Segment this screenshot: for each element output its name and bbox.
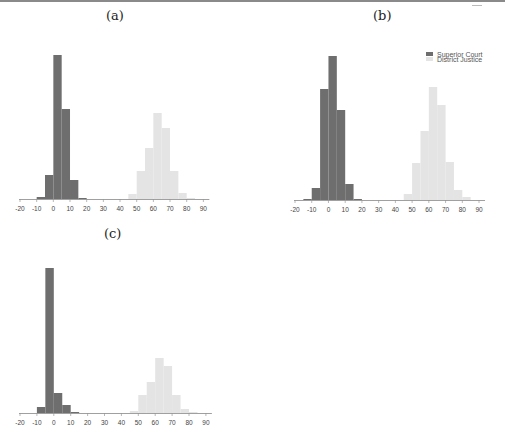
x-tick-label: 40	[116, 205, 124, 212]
legend: Superior CourtDistrict Justice	[426, 51, 483, 63]
histogram-bar	[54, 393, 62, 413]
histogram-bar	[337, 110, 345, 200]
histogram-bar	[45, 268, 53, 413]
histogram-bar	[153, 113, 161, 199]
histogram-bar	[312, 188, 320, 200]
histogram-bar	[137, 171, 145, 199]
x-tick-label: -10	[32, 205, 42, 212]
histogram-panel-b: -20-100102030405060708090Superior CourtD…	[290, 51, 485, 213]
histogram-bar	[429, 87, 437, 200]
histogram-bar	[37, 197, 45, 199]
histogram-bar	[328, 56, 336, 200]
histogram-bar	[147, 382, 155, 413]
x-tick-label: 70	[166, 205, 174, 212]
x-tick-label: 20	[84, 419, 92, 426]
x-tick-label: -20	[15, 205, 25, 212]
histogram-bar	[71, 412, 79, 413]
histogram-panel-a: -20-100102030405060708090	[15, 55, 209, 212]
legend-label: District Justice	[437, 56, 482, 63]
histogram-bar	[320, 89, 328, 200]
x-tick-label: 40	[392, 206, 400, 213]
histogram-bar	[412, 163, 420, 200]
histogram-bar	[170, 171, 178, 199]
x-tick-label: 50	[135, 419, 143, 426]
histogram-bar	[37, 407, 45, 413]
histogram-bar	[155, 358, 163, 413]
x-tick-label: 90	[202, 419, 210, 426]
x-tick-label: 80	[459, 206, 467, 213]
histogram-figure: -20-100102030405060708090 -20-1001020304…	[0, 0, 505, 444]
histogram-bar	[404, 194, 412, 200]
x-tick-label: 50	[408, 206, 416, 213]
x-tick-label: -10	[307, 206, 317, 213]
histogram-bar	[187, 198, 195, 199]
histogram-bar	[62, 405, 70, 413]
histogram-bar	[420, 131, 428, 200]
x-tick-label: -20	[15, 419, 25, 426]
histogram-bar	[446, 162, 454, 200]
x-tick-label: 60	[150, 205, 158, 212]
x-tick-label: 0	[52, 419, 56, 426]
histogram-bar	[45, 175, 53, 199]
x-tick-label: 50	[133, 205, 141, 212]
x-tick-label: 60	[425, 206, 433, 213]
histogram-bar	[172, 395, 180, 413]
x-tick-label: 0	[327, 206, 331, 213]
x-tick-label: 30	[375, 206, 383, 213]
histogram-bar	[189, 412, 197, 413]
histogram-bar	[145, 148, 153, 199]
x-tick-label: 10	[66, 205, 74, 212]
histogram-bar	[178, 193, 186, 199]
histogram-bar	[70, 180, 78, 199]
histogram-panel-c: -20-100102030405060708090	[15, 268, 212, 426]
histogram-bar	[354, 199, 362, 200]
legend-swatch	[426, 57, 433, 61]
x-tick-label: 80	[183, 205, 191, 212]
histogram-bar	[53, 55, 61, 199]
histogram-bar	[437, 105, 445, 200]
histogram-bar	[462, 197, 470, 200]
histogram-bar	[62, 109, 70, 199]
histogram-bar	[345, 184, 353, 200]
x-tick-label: 70	[442, 206, 450, 213]
histogram-bar	[303, 199, 311, 200]
histogram-bar	[78, 198, 86, 199]
x-tick-label: -20	[290, 206, 300, 213]
x-tick-label: 90	[200, 205, 208, 212]
x-tick-label: 20	[83, 205, 91, 212]
x-tick-label: 10	[67, 419, 75, 426]
histogram-bar	[164, 366, 172, 413]
x-tick-label: -10	[32, 419, 42, 426]
x-tick-label: 10	[342, 206, 350, 213]
histogram-bar	[181, 409, 189, 413]
x-tick-label: 80	[185, 419, 193, 426]
x-tick-label: 30	[100, 205, 108, 212]
x-tick-label: 70	[168, 419, 176, 426]
x-tick-label: 40	[118, 419, 126, 426]
legend-swatch	[426, 52, 433, 56]
x-tick-label: 90	[475, 206, 483, 213]
x-tick-label: 0	[52, 205, 56, 212]
histogram-bar	[454, 190, 462, 200]
histogram-bar	[162, 128, 170, 199]
histogram-bar	[128, 194, 136, 199]
x-tick-label: 30	[101, 419, 109, 426]
histogram-bar	[138, 395, 146, 413]
histogram-bar	[130, 411, 138, 413]
x-tick-label: 20	[358, 206, 366, 213]
x-tick-label: 60	[152, 419, 160, 426]
